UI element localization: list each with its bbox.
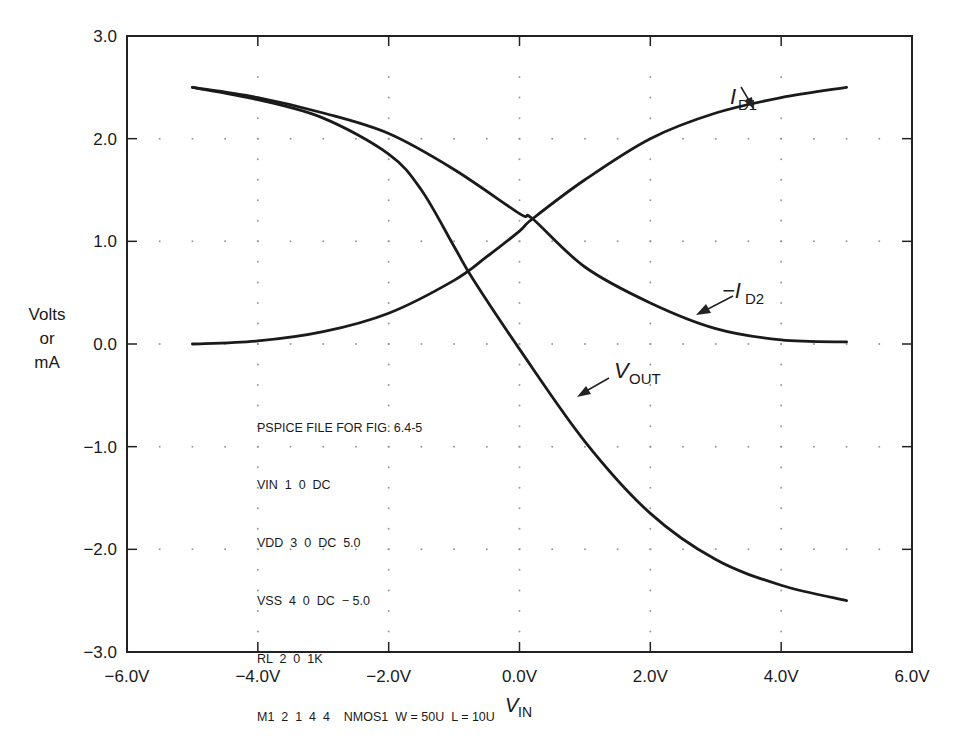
annotation-id2: −I D2 [696, 278, 764, 315]
x-tick-label: 2.0V [633, 667, 669, 686]
arrowhead-id2-icon [696, 304, 711, 315]
svg-text:D2: D2 [745, 290, 764, 307]
annotation-id1: I D1 [730, 84, 757, 113]
netlist-line: VSS 4 0 DC − 5.0 [257, 592, 534, 611]
y-tick-label: 1.0 [93, 232, 117, 251]
annotation-vout: V OUT [577, 358, 661, 397]
y-tick-label: 0.0 [93, 335, 117, 354]
y-label-line-2: or [22, 327, 72, 351]
y-tick-label: 2.0 [93, 130, 117, 149]
y-axis-label: Volts or mA [22, 303, 72, 375]
netlist-line: VIN 1 0 DC [257, 476, 534, 495]
y-label-line-3: mA [22, 351, 72, 375]
svg-text:OUT: OUT [629, 370, 661, 387]
y-tick-label: 3.0 [93, 27, 117, 46]
netlist-line: VDD 3 0 DC 5.0 [257, 534, 534, 553]
x-tick-label: −6.0V [105, 667, 151, 686]
svg-text:−I: −I [722, 278, 741, 303]
arrowhead-vout-icon [577, 386, 591, 397]
y-tick-label: −1.0 [83, 438, 117, 457]
y-label-line-1: Volts [22, 303, 72, 327]
pspice-netlist: PSPICE FILE FOR FIG. 6.4-5 VIN 1 0 DC VD… [257, 380, 534, 746]
y-tick-label: −2.0 [83, 540, 117, 559]
netlist-line: PSPICE FILE FOR FIG. 6.4-5 [257, 419, 534, 438]
x-tick-label: 6.0V [895, 667, 931, 686]
netlist-line: M1 2 1 4 4 NMOS1 W = 50U L = 10U [257, 708, 534, 727]
svg-text:I: I [730, 84, 736, 109]
arrow-vout [588, 378, 609, 390]
x-tick-label: 4.0V [764, 667, 800, 686]
netlist-line: RL 2 0 1K [257, 650, 534, 669]
y-tick-label: −3.0 [83, 643, 117, 662]
y-tick-labels: 3.02.01.00.0−1.0−2.0−3.0 [83, 27, 117, 662]
